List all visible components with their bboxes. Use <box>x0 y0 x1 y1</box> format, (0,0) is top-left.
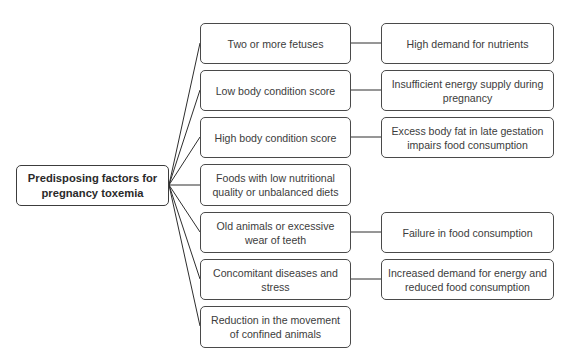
factor-label: Concomitant diseases and stress <box>207 266 344 294</box>
hub-label: Predisposing factors for pregnancy toxem… <box>23 171 162 201</box>
factor-box-low-body-condition: Low body condition score <box>200 70 351 111</box>
factor-label: High body condition score <box>215 131 337 145</box>
connector-hub-factor-1 <box>169 43 200 185</box>
factor-label: Old animals or excessive wear of teeth <box>207 219 344 247</box>
effect-label: Failure in food consumption <box>402 226 532 240</box>
factor-box-old-animals-teeth-wear: Old animals or excessive wear of teeth <box>200 212 351 253</box>
factor-label: Reduction in the movement of confined an… <box>207 313 344 341</box>
connector-hub-factor-7 <box>169 185 200 326</box>
effect-box-high-nutrient-demand: High demand for nutrients <box>381 23 554 64</box>
factor-box-high-body-condition: High body condition score <box>200 117 351 158</box>
effect-label: High demand for nutrients <box>407 37 529 51</box>
effect-box-excess-body-fat: Excess body fat in late gestation impair… <box>381 117 554 158</box>
effect-box-increased-energy-demand: Increased demand for energy and reduced … <box>381 259 554 300</box>
effect-box-failure-food-consumption: Failure in food consumption <box>381 212 554 253</box>
factor-label: Foods with low nutritional quality or un… <box>207 171 344 199</box>
connector-hub-factor-6 <box>169 185 200 279</box>
factor-box-concomitant-diseases: Concomitant diseases and stress <box>200 259 351 300</box>
factor-box-reduced-movement: Reduction in the movement of confined an… <box>200 306 351 348</box>
connector-hub-factor-3 <box>169 137 200 185</box>
factor-box-low-quality-foods: Foods with low nutritional quality or un… <box>200 164 351 206</box>
hub-box-predisposing-factors: Predisposing factors for pregnancy toxem… <box>16 165 169 206</box>
effect-label: Excess body fat in late gestation impair… <box>388 124 547 152</box>
effect-label: Insufficient energy supply during pregna… <box>388 77 547 105</box>
factor-label: Two or more fetuses <box>228 37 324 51</box>
factor-label: Low body condition score <box>216 84 336 98</box>
connector-hub-factor-5 <box>169 185 200 232</box>
connector-hub-factor-2 <box>169 90 200 185</box>
factor-box-two-or-more-fetuses: Two or more fetuses <box>200 23 351 64</box>
effect-label: Increased demand for energy and reduced … <box>388 266 547 294</box>
effect-box-insufficient-energy: Insufficient energy supply during pregna… <box>381 70 554 111</box>
